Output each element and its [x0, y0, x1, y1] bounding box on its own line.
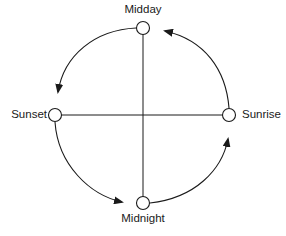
label-midnight: Midnight — [121, 213, 164, 225]
node-midnight — [137, 197, 150, 210]
node-sunset — [49, 109, 62, 122]
node-midday — [137, 22, 150, 35]
label-sunrise: Sunrise — [242, 109, 281, 121]
arrow-midnight-to-sunrise — [150, 139, 228, 203]
node-sunrise — [223, 109, 236, 122]
arrow-midday-to-sunset — [58, 28, 136, 92]
label-midday: Midday — [124, 4, 161, 16]
day-cycle-diagram: Midday Sunset Sunrise Midnight — [0, 0, 286, 236]
arrow-sunset-to-midnight — [55, 122, 122, 202]
label-sunset: Sunset — [11, 109, 47, 121]
arrow-sunrise-to-midday — [165, 31, 229, 108]
